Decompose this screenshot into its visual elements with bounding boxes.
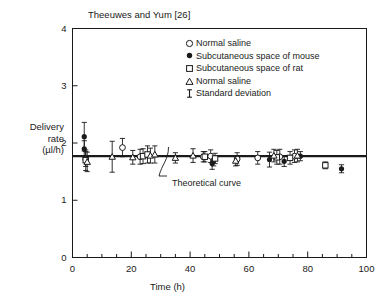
y-tick-label: 3 bbox=[51, 80, 67, 91]
series-open-circle bbox=[83, 138, 298, 166]
data-point-marker bbox=[282, 159, 287, 164]
x-tick-label: 40 bbox=[178, 263, 202, 274]
y-tick-label: 1 bbox=[51, 194, 67, 205]
x-tick-label: 60 bbox=[237, 263, 261, 274]
x-tick-label: 100 bbox=[355, 263, 379, 274]
annotation-leader-line bbox=[159, 147, 169, 176]
y-tick-label: 2 bbox=[51, 137, 67, 148]
x-tick-label: 80 bbox=[296, 263, 320, 274]
x-tick-label: 0 bbox=[61, 263, 85, 274]
data-point-marker bbox=[255, 155, 261, 161]
data-point-marker bbox=[323, 163, 328, 168]
data-point-marker bbox=[202, 154, 207, 159]
y-tick-label: 0 bbox=[51, 252, 67, 263]
x-tick-label: 20 bbox=[119, 263, 143, 274]
data-point-marker bbox=[287, 155, 292, 160]
data-point-marker bbox=[120, 145, 126, 151]
y-tick-label: 4 bbox=[51, 23, 67, 34]
data-point-marker bbox=[152, 151, 158, 157]
data-point-marker bbox=[82, 134, 87, 139]
data-point-marker bbox=[339, 166, 344, 171]
plot-frame bbox=[73, 29, 367, 258]
figure-container: Theeuwes and Yum [26] Delivery rate (µl/… bbox=[0, 0, 391, 300]
data-point-marker bbox=[212, 156, 217, 161]
